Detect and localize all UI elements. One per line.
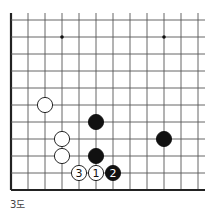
go-board: 312 [0, 0, 205, 200]
white-stone [37, 97, 52, 112]
move-number: 2 [110, 167, 117, 180]
star-point [60, 35, 64, 39]
white-stone-3: 3 [71, 165, 86, 180]
move-number: 3 [76, 167, 83, 180]
diagram-caption: 3도 [10, 199, 25, 211]
move-number: 1 [93, 167, 100, 180]
black-stone [88, 114, 103, 129]
black-stone-2: 2 [105, 165, 120, 180]
black-stone [88, 148, 103, 163]
black-stone [156, 131, 171, 146]
star-point [162, 35, 166, 39]
white-stone [54, 148, 69, 163]
white-stone [54, 131, 69, 146]
white-stone-1: 1 [88, 165, 103, 180]
